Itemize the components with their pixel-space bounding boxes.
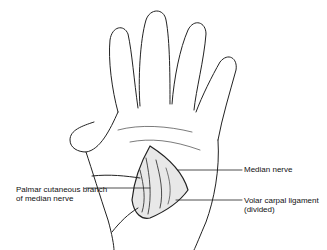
label-palmar-branch-line2: of median nerve — [16, 194, 73, 203]
ring-finger-outline — [172, 23, 206, 110]
palm-ulnar-edge — [194, 140, 218, 250]
retractor-lower — [112, 208, 138, 232]
retractor-upper — [92, 175, 140, 178]
label-median-nerve: Median nerve — [244, 165, 292, 174]
label-volar-ligament-line2: (divided) — [244, 205, 275, 214]
label-volar-ligament-line1: Volar carpal ligament — [244, 196, 319, 205]
middle-finger-outline — [139, 11, 170, 106]
label-palmar-branch-line1: Palmar cutaneous branch — [16, 185, 107, 194]
palm-radial-edge — [86, 152, 114, 250]
index-finger-outline — [109, 28, 138, 112]
hand-diagram — [0, 0, 327, 250]
hand-illustration — [0, 0, 327, 250]
little-finger-outline — [196, 57, 236, 140]
thumb-outline — [70, 112, 118, 152]
